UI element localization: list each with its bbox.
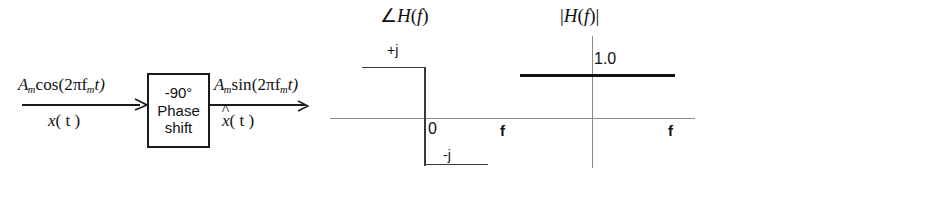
phase-response-plot: ∠H(f) +j -j 0 f [330, 0, 540, 185]
output-signal-name: x( t ) [222, 112, 254, 129]
phase-plot-origin-label: 0 [428, 120, 437, 138]
magnitude-response-plot: |H(f)| 1.0 f [520, 0, 710, 185]
input-signal-expression: Amcos(2πfmt) [18, 76, 105, 95]
hilbert-transform-figure: Amcos(2πfmt) x( t ) -90° Phase shift Ams… [0, 0, 936, 207]
magnitude-plot-title: |H(f)| [560, 6, 599, 25]
magnitude-plot-value-label: 1.0 [594, 50, 616, 68]
magnitude-plot-x-axis [520, 118, 695, 119]
output-signal-expression: Amsin(2πfmt) [214, 76, 298, 95]
magnitude-plot-x-axis-label: f [668, 122, 673, 139]
phase-shift-line2: Phase [157, 102, 200, 119]
phase-plot-x-axis-label: f [500, 122, 505, 139]
block-diagram: Amcos(2πfmt) x( t ) -90° Phase shift Ams… [0, 56, 340, 166]
magnitude-constant-trace [520, 74, 675, 77]
input-wire [22, 104, 140, 106]
phase-shift-block[interactable]: -90° Phase shift [147, 73, 210, 148]
impulse-response-figure: h(t)=1πt [700, 0, 936, 207]
phase-step-transition [424, 67, 426, 166]
phase-shift-degrees: -90° [165, 84, 193, 101]
phase-step-lower-segment [424, 164, 488, 165]
phase-plot-title: ∠H(f) [380, 6, 429, 25]
output-arrowhead-icon [297, 99, 311, 113]
input-signal-name: x( t ) [48, 112, 80, 129]
phase-shift-line3: shift [165, 119, 193, 136]
phase-step-upper-segment [362, 67, 425, 68]
phase-plot-lower-value-label: -j [443, 147, 451, 163]
phase-plot-upper-value-label: +j [387, 42, 398, 58]
